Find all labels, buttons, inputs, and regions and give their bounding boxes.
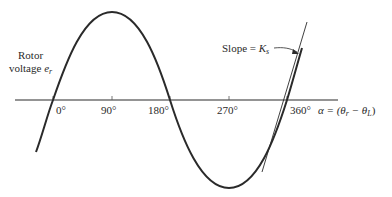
x-axis-label-suffix: ) [372,104,376,116]
tick-label-180: 180° [148,104,169,116]
y-label-subscript: r [49,67,52,76]
tick-label-90: 90° [101,104,116,116]
y-label-line1: Rotor [18,49,43,61]
x-axis-label: α = (θr − θL) [318,104,375,120]
y-label-word: voltage [9,62,41,74]
tick-label-270: 270° [217,104,238,116]
slope-label-symbol: K [259,42,266,54]
x-axis-label-prefix: α = (θ [318,104,346,116]
sine-diagram [0,0,392,197]
slope-label: Slope = Ks [222,42,269,58]
y-label-line2: voltage er [9,62,52,78]
tick-label-360: 360° [290,104,311,116]
slope-label-subscript: s [266,47,269,56]
tick-label-0: 0° [56,104,66,116]
x-axis-label-mid: − θ [349,104,367,116]
slope-label-prefix: Slope = [222,42,259,54]
